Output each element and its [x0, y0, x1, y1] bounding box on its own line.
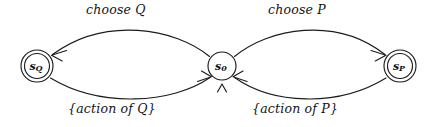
edge-label-choose-q: choose Q [86, 2, 146, 17]
edge-choose-p-arrowhead [371, 51, 386, 62]
edge-choose-q [52, 30, 210, 61]
state-transition-diagram: sQ s0 sP choose Q choose P {action of Q}… [0, 0, 436, 127]
diagram-canvas: sQ s0 sP [0, 0, 436, 127]
edge-action-of-p-path [235, 78, 387, 99]
node-sq-label-sub: Q [36, 63, 43, 73]
node-s0[interactable]: s0 [208, 52, 236, 80]
edge-choose-p [235, 30, 387, 61]
edge-label-action-of-q: {action of Q} [68, 101, 156, 116]
node-sp[interactable]: sP [384, 50, 416, 82]
edge-label-action-of-p: {action of P} [252, 101, 338, 116]
edge-action-of-q-path [51, 78, 211, 99]
edge-action-of-q [51, 71, 212, 99]
edge-choose-q-path [53, 30, 210, 56]
edge-choose-p-path [235, 30, 386, 56]
node-sp-label-sub: P [398, 63, 406, 73]
wedge-icon [218, 84, 227, 92]
edge-action-of-p [233, 71, 386, 99]
edge-label-choose-p: choose P [268, 2, 326, 17]
node-s0-label-sub: 0 [221, 63, 227, 73]
node-sq[interactable]: sQ [21, 50, 53, 82]
edge-choose-q-arrowhead [52, 51, 67, 62]
edge-action-of-p-arrowhead [233, 71, 247, 82]
